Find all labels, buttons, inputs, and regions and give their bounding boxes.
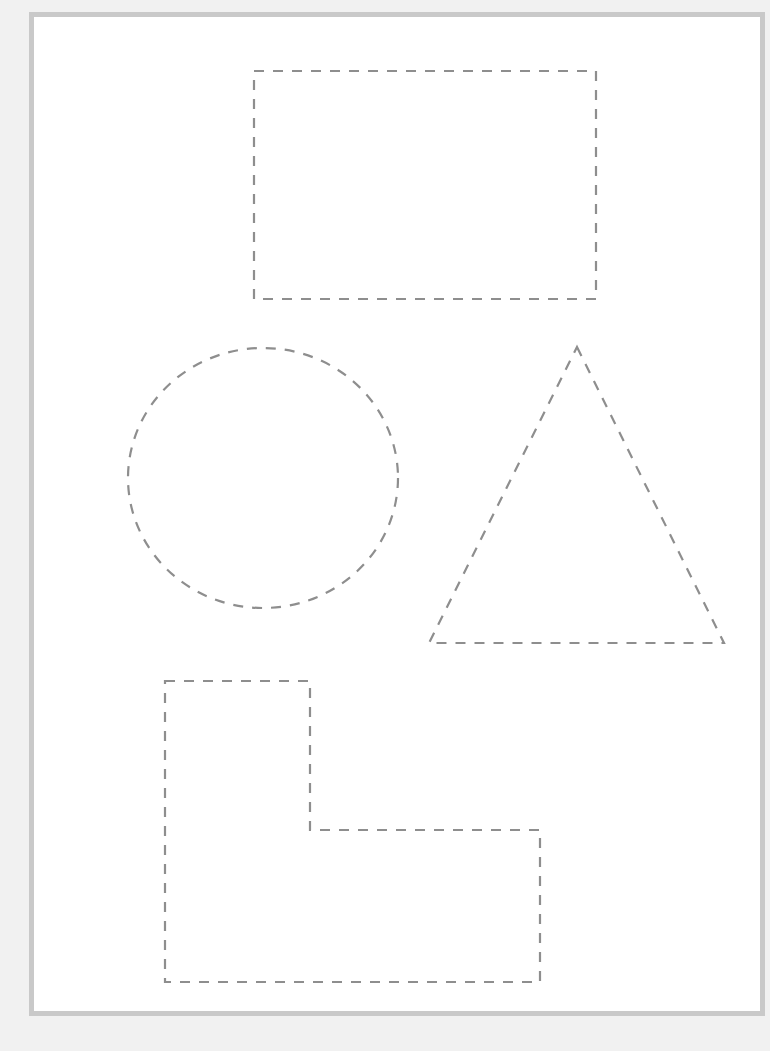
dashed-triangle-shape [429, 347, 724, 643]
shape-tracing-canvas [0, 0, 770, 1051]
dashed-l-shape [165, 681, 540, 982]
page [0, 0, 770, 1051]
dashed-circle-shape [128, 348, 398, 608]
dashed-rectangle-shape [254, 71, 596, 299]
